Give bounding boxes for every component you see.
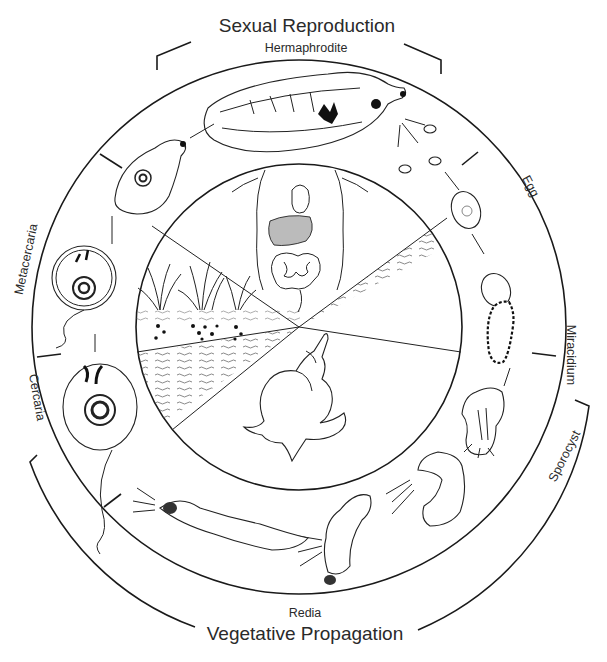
sporocyst-illustration	[386, 388, 504, 526]
plants-illustration	[138, 262, 256, 341]
life-cycle-diagram: Sexual Reproduction Hermaphrodite Egg Mi…	[0, 0, 607, 662]
liver-icon	[269, 216, 313, 246]
phase-title-vegetative-propagation: Vegetative Propagation	[207, 623, 404, 644]
stage-label-redia: Redia	[289, 606, 322, 620]
miracidium-illustration	[476, 269, 516, 386]
redia-illustration	[133, 488, 371, 585]
juvenile-fluke-illustration	[112, 124, 214, 244]
stage-label-hermaphrodite: Hermaphrodite	[265, 41, 348, 55]
egg-stage-illustration	[445, 172, 486, 254]
stage-label-egg: Egg	[519, 173, 542, 199]
cercaria-illustration	[63, 334, 137, 554]
hermaphrodite-fluke-illustration	[204, 72, 406, 151]
stage-label-cercaria: Cercaria	[26, 373, 48, 422]
metacercaria-illustration	[52, 246, 116, 348]
stage-label-miracidium: Miracidium	[564, 325, 578, 385]
phase-title-sexual-reproduction: Sexual Reproduction	[219, 15, 395, 36]
eggs-illustration	[398, 119, 441, 173]
